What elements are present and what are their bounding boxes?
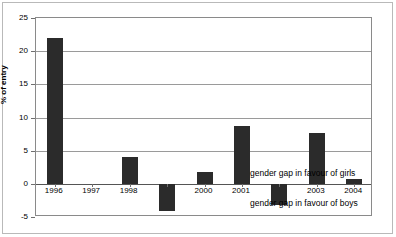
y-axis-tick-mark bbox=[31, 84, 35, 85]
y-axis-tick-label: 20 bbox=[19, 46, 28, 55]
bar bbox=[47, 38, 63, 184]
y-axis-tick-label: 15 bbox=[19, 79, 28, 88]
y-axis-tick-mark bbox=[31, 51, 35, 52]
zero-axis-line bbox=[36, 184, 371, 185]
gridline bbox=[36, 51, 371, 52]
x-axis-tick-label: 1996 bbox=[45, 186, 63, 195]
y-axis-tick-label: 25 bbox=[19, 13, 28, 22]
x-axis-tick-label: 2003 bbox=[307, 186, 325, 195]
x-axis-tick-label: 1997 bbox=[82, 186, 100, 195]
bar-chart-figure: % of entry 2520151050-5 gender gap in fa… bbox=[0, 0, 396, 237]
bar bbox=[159, 184, 175, 211]
y-axis-tick-mark bbox=[31, 18, 35, 19]
y-axis-tick-mark bbox=[31, 151, 35, 152]
y-axis-tick-mark bbox=[31, 184, 35, 185]
y-axis-tick-label: -5 bbox=[21, 212, 28, 221]
gridline bbox=[36, 118, 371, 119]
x-axis-tick-label: 2004 bbox=[344, 186, 362, 195]
x-axis-tick-label: 2000 bbox=[195, 186, 213, 195]
y-axis-tick-mark bbox=[31, 217, 35, 218]
x-axis-tick-label: 1998 bbox=[120, 186, 138, 195]
y-axis-tick-label: 5 bbox=[24, 145, 28, 154]
x-axis-tick-mark bbox=[279, 184, 280, 187]
gridline bbox=[36, 84, 371, 85]
bar bbox=[122, 157, 138, 184]
y-axis-tick-label: 0 bbox=[24, 178, 28, 187]
y-axis-tick-label: 10 bbox=[19, 112, 28, 121]
y-axis-tick-mark bbox=[31, 118, 35, 119]
y-axis-title: % of entry bbox=[0, 65, 8, 104]
bar bbox=[197, 172, 213, 184]
chart-annotation: gender gap in favour of girls bbox=[250, 168, 355, 178]
x-axis-tick-label: 2001 bbox=[232, 186, 250, 195]
bar bbox=[234, 126, 250, 184]
chart-annotation: gender gap in favour of boys bbox=[250, 198, 358, 208]
x-axis-tick-mark bbox=[167, 184, 168, 187]
